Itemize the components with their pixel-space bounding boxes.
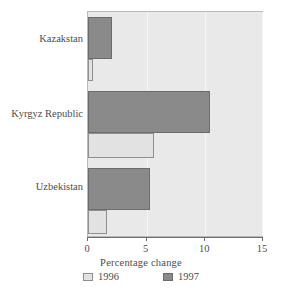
- bar-kazakstan-1997: [88, 17, 112, 59]
- bar-uzbekistan-1997: [88, 168, 150, 210]
- plot-area: [87, 11, 263, 237]
- bar-kazakstan-1996: [88, 59, 93, 81]
- gridline-15: [262, 12, 263, 236]
- legend-swatch-icon-1996: [83, 273, 93, 281]
- legend-label-1996: 1996: [98, 272, 119, 283]
- legend-item-1997: 1997: [163, 272, 199, 283]
- bar-kyrgyz-republic-1997: [88, 91, 210, 133]
- legend-swatch-icon-1997: [163, 273, 173, 281]
- x-axis-line: [87, 237, 263, 238]
- legend-label-1997: 1997: [178, 272, 199, 283]
- x-tick-mark-10: [204, 237, 205, 241]
- category-label-uzbekistan: Uzbekistan: [0, 181, 83, 192]
- category-label-text: Kazakstan: [39, 33, 83, 44]
- category-label-kazakstan: Kazakstan: [0, 33, 83, 44]
- bar-kyrgyz-republic-1996: [88, 133, 154, 158]
- x-axis-title: Percentage change: [0, 257, 282, 268]
- bar-chart: Kazakstan Kyrgyz Republic Uzbekistan 0 5…: [0, 0, 282, 297]
- bar-uzbekistan-1996: [88, 210, 107, 234]
- category-label-text: Kyrgyz Republic: [11, 108, 83, 119]
- category-label-kyrgyz-republic: Kyrgyz Republic: [0, 108, 83, 119]
- x-tick-mark-0: [87, 237, 88, 241]
- x-tick-label-0: 0: [75, 243, 99, 254]
- x-tick-label-15: 15: [250, 243, 274, 254]
- category-label-text: Uzbekistan: [36, 181, 83, 192]
- x-tick-label-10: 10: [192, 243, 216, 254]
- legend-item-1996: 1996: [83, 272, 119, 283]
- chart-legend: 1996 1997: [0, 272, 282, 283]
- x-tick-mark-15: [262, 237, 263, 241]
- x-tick-mark-5: [146, 237, 147, 241]
- x-tick-label-5: 5: [134, 243, 158, 254]
